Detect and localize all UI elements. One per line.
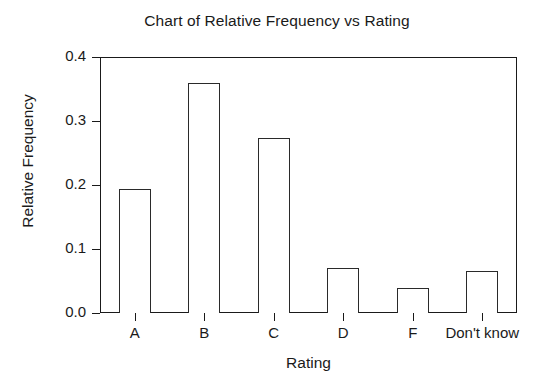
x-tick-label: C (268, 324, 279, 341)
y-tick-mark (92, 185, 100, 186)
y-tick-label: 0.1 (42, 239, 86, 256)
x-tick-mark (135, 313, 136, 321)
bars-layer (100, 57, 517, 313)
x-tick-label: Don't know (445, 324, 519, 341)
bar-c (258, 138, 290, 313)
bar-don-t-know (466, 271, 498, 313)
bar-b (188, 83, 220, 313)
x-tick-label: A (130, 324, 140, 341)
y-axis-title: Relative Frequency (19, 51, 37, 271)
y-tick-mark (92, 313, 100, 314)
x-tick-label: B (199, 324, 209, 341)
bar-d (327, 268, 359, 313)
y-tick-label: 0.0 (42, 303, 86, 320)
y-tick-label: 0.2 (42, 175, 86, 192)
bar-a (119, 189, 151, 313)
x-tick-mark (204, 313, 205, 321)
y-tick-label: 0.3 (42, 111, 86, 128)
bar-f (397, 288, 429, 313)
x-tick-mark (343, 313, 344, 321)
y-tick-mark (92, 249, 100, 250)
y-axis-tick-labels: 0.00.10.20.30.4 (42, 0, 86, 391)
x-tick-label: D (338, 324, 349, 341)
bar-chart-figure: Chart of Relative Frequency vs Rating 0.… (0, 0, 554, 391)
x-axis-title: Rating (100, 354, 517, 372)
y-tick-mark (92, 121, 100, 122)
x-tick-mark (413, 313, 414, 321)
x-tick-label: F (408, 324, 417, 341)
x-tick-mark (274, 313, 275, 321)
y-tick-label: 0.4 (42, 47, 86, 64)
x-tick-mark (482, 313, 483, 321)
y-tick-mark (92, 57, 100, 58)
